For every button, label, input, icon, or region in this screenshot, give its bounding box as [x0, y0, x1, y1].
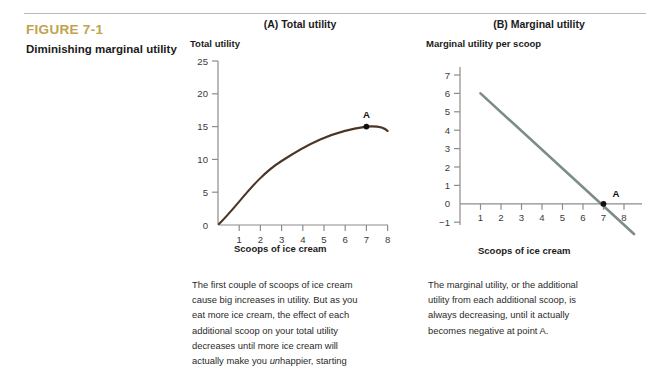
panel-b-x-axis-title: Scoops of ice cream — [478, 245, 570, 256]
panel-b-xtick-4: 4 — [539, 212, 545, 223]
caption-a-line-4: additional scoop on your total utility — [192, 323, 414, 338]
figure-page: FIGURE 7-1 Diminishing marginal utility … — [0, 0, 670, 366]
caption-panel-a: The first couple of scoops of ice cream … — [192, 277, 414, 366]
panel-a-ytick-5: 5 — [203, 187, 208, 198]
panel-b-title: (B) Marginal utility — [420, 18, 658, 32]
panel-b-xtick-2: 2 — [498, 212, 503, 223]
panel-a-plot: 25 20 15 10 5 0 1 — [182, 53, 418, 258]
panel-a-ytick-20: 20 — [197, 88, 208, 99]
panel-b-point-a-label: A — [613, 188, 620, 199]
panel-a-ytick-25: 25 — [197, 56, 208, 67]
panel-b-svg: 7 6 5 4 3 2 1 0 −1 — [420, 53, 658, 258]
panel-a-ytick-10: 10 — [197, 154, 208, 165]
caption-a-line-2: cause big increases in utility. But as y… — [192, 292, 414, 307]
panel-b-ytick-4: 4 — [445, 125, 451, 136]
panel-b-xtick-8: 8 — [621, 212, 626, 223]
panel-a-ytick-0: 0 — [203, 220, 208, 231]
panel-a-x-ticks: 1 2 3 4 5 6 7 8 — [237, 225, 391, 245]
caption-a-line-1: The first couple of scoops of ice cream — [192, 277, 414, 292]
panel-b-point-a-marker — [601, 201, 607, 207]
panel-a-title: (A) Total utility — [182, 18, 418, 32]
panel-b-ytick-6: 6 — [445, 88, 450, 99]
figure-title: Diminishing marginal utility — [26, 42, 178, 57]
panel-total-utility: (A) Total utility Total utility 25 20 15… — [182, 18, 418, 258]
panel-b-ytick-5: 5 — [445, 106, 450, 117]
figure-number: FIGURE 7-1 — [26, 22, 178, 37]
caption-b-line-4: becomes negative at point A. — [428, 323, 652, 338]
caption-b-line-2: utility from each additional scoop, is — [428, 292, 652, 307]
panel-b-y-ticks: 7 6 5 4 3 2 1 0 −1 — [439, 70, 460, 228]
panel-b-ytick-3: 3 — [445, 143, 450, 154]
caption-b-line-1: The marginal utility, or the additional — [428, 277, 652, 292]
panel-b-xtick-7: 7 — [601, 212, 606, 223]
panel-a-point-a-marker — [364, 124, 370, 130]
figure-label-column: FIGURE 7-1 Diminishing marginal utility — [26, 22, 178, 57]
panel-a-ytick-15: 15 — [197, 121, 208, 132]
panel-a-x-axis-title: Scoops of ice cream — [234, 243, 326, 254]
panel-b-ytick-2: 2 — [445, 162, 450, 173]
panel-a-xtick-7: 7 — [364, 234, 369, 245]
panel-marginal-utility: (B) Marginal utility Marginal utility pe… — [420, 18, 658, 258]
caption-a-line-6-post: happier, starting — [280, 355, 347, 366]
caption-a-line-6: actually make you unhappier, starting — [192, 353, 414, 366]
panel-b-xtick-3: 3 — [519, 212, 524, 223]
panel-b-xtick-6: 6 — [580, 212, 585, 223]
caption-a-line-5: decreases until more ice cream will — [192, 338, 414, 353]
top-divider — [24, 13, 646, 14]
panel-a-svg: 25 20 15 10 5 0 1 — [182, 53, 418, 258]
caption-a-line-6-italic: un — [270, 355, 280, 366]
panel-a-xtick-8: 8 — [385, 234, 390, 245]
panel-b-ytick-neg1: −1 — [439, 217, 450, 228]
panel-b-plot: 7 6 5 4 3 2 1 0 −1 — [420, 53, 658, 258]
panel-a-total-utility-curve — [219, 126, 388, 224]
caption-a-line-3: eat more ice cream, the effect of each — [192, 307, 414, 322]
caption-panel-b: The marginal utility, or the additional … — [428, 277, 652, 338]
panel-a-y-ticks: 25 20 15 10 5 0 — [197, 56, 218, 232]
caption-b-line-3: always decreasing, until it actually — [428, 307, 652, 322]
panel-a-xtick-6: 6 — [343, 234, 348, 245]
panel-b-ytick-0: 0 — [445, 198, 450, 209]
panel-b-ytick-7: 7 — [445, 70, 450, 81]
caption-a-line-6-pre: actually make you — [192, 355, 270, 366]
panel-b-y-axis-title: Marginal utility per scoop — [426, 38, 658, 49]
panel-a-y-axis-title: Total utility — [190, 38, 418, 49]
panel-b-xtick-5: 5 — [560, 212, 565, 223]
panel-b-xtick-1: 1 — [478, 212, 483, 223]
panel-a-point-a-label: A — [363, 109, 370, 120]
panel-b-ytick-1: 1 — [445, 180, 450, 191]
